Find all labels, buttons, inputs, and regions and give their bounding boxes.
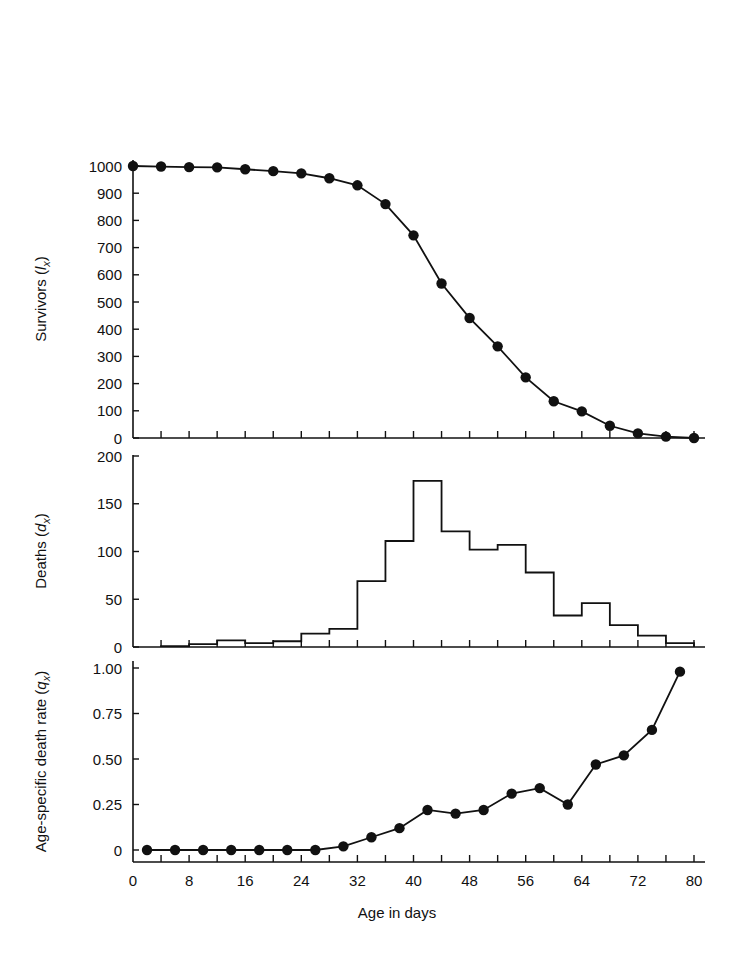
y-tick-label: 900 — [97, 185, 122, 202]
data-point — [142, 845, 152, 855]
data-point — [436, 278, 446, 288]
y-tick-label: 700 — [97, 239, 122, 256]
data-point — [563, 799, 573, 809]
y-axis-label: Age-specific death rate (qx) — [32, 671, 52, 852]
y-tick-label: 150 — [97, 495, 122, 512]
histogram-steps — [161, 481, 694, 647]
data-point — [689, 433, 699, 443]
data-point — [619, 750, 629, 760]
data-point — [535, 783, 545, 793]
data-point — [282, 845, 292, 855]
y-tick-label: 1.00 — [93, 660, 122, 677]
data-point — [464, 313, 474, 323]
death-rate-panel: 00.250.500.751.00Age-specific death rate… — [32, 660, 705, 890]
x-tick-label: 0 — [129, 872, 137, 889]
y-axis-label-close: ) — [32, 671, 49, 676]
x-tick-label: 56 — [517, 872, 534, 889]
data-point — [478, 805, 488, 815]
y-axis-label-close: ) — [32, 513, 49, 518]
x-tick-label: 72 — [630, 872, 647, 889]
x-axis-label: Age in days — [358, 904, 436, 921]
data-point — [661, 431, 671, 441]
data-point — [128, 161, 138, 171]
life-table-figure: 01002003004005006007008009001000Survivor… — [0, 0, 743, 958]
y-tick-label: 400 — [97, 321, 122, 338]
data-point — [521, 372, 531, 382]
y-tick-label: 0 — [114, 430, 122, 447]
y-tick-label: 200 — [97, 448, 122, 465]
x-tick-label: 32 — [349, 872, 366, 889]
data-point — [647, 725, 657, 735]
data-point — [170, 845, 180, 855]
x-tick-label: 64 — [573, 872, 590, 889]
y-tick-label: 100 — [97, 543, 122, 560]
data-point — [366, 832, 376, 842]
data-point — [338, 841, 348, 851]
y-tick-label: 100 — [97, 402, 122, 419]
data-line — [147, 672, 680, 850]
y-axis-label: Deaths (dx) — [32, 513, 52, 589]
data-point — [591, 759, 601, 769]
data-point — [394, 823, 404, 833]
y-tick-label: 600 — [97, 266, 122, 283]
data-point — [156, 161, 166, 171]
y-tick-label: 0.25 — [93, 796, 122, 813]
x-tick-label: 16 — [237, 872, 254, 889]
data-point — [506, 788, 516, 798]
survivors-panel: 01002003004005006007008009001000Survivor… — [32, 158, 705, 447]
data-point — [675, 666, 685, 676]
data-point — [296, 168, 306, 178]
x-tick-label: 8 — [185, 872, 193, 889]
data-point — [605, 421, 615, 431]
data-point — [492, 341, 502, 351]
x-tick-label: 40 — [405, 872, 422, 889]
deaths-panel: 050100150200Deaths (dx) — [32, 448, 705, 656]
data-point — [380, 199, 390, 209]
y-tick-label: 50 — [105, 591, 122, 608]
data-point — [324, 173, 334, 183]
data-point — [226, 845, 236, 855]
x-tick-label: 24 — [293, 872, 310, 889]
y-tick-label: 0 — [114, 639, 122, 656]
y-axis-label-text: Age-specific death rate ( — [32, 690, 49, 853]
y-axis-label: Survivors (lx) — [32, 256, 52, 342]
data-point — [240, 164, 250, 174]
data-point — [549, 396, 559, 406]
y-tick-label: 0.75 — [93, 705, 122, 722]
y-tick-label: 1000 — [89, 158, 122, 175]
y-axis-label-close: ) — [32, 256, 49, 261]
data-point — [198, 845, 208, 855]
data-point — [450, 808, 460, 818]
data-point — [633, 428, 643, 438]
x-tick-label: 48 — [461, 872, 478, 889]
y-tick-label: 200 — [97, 375, 122, 392]
y-tick-label: 300 — [97, 348, 122, 365]
y-axis-label-text: Deaths ( — [32, 532, 49, 589]
data-point — [422, 805, 432, 815]
data-point — [408, 230, 418, 240]
data-point — [268, 166, 278, 176]
data-point — [184, 162, 194, 172]
x-tick-label: 80 — [686, 872, 703, 889]
y-tick-label: 0.50 — [93, 751, 122, 768]
data-point — [577, 406, 587, 416]
data-point — [310, 845, 320, 855]
y-tick-label: 0 — [114, 842, 122, 859]
data-line — [133, 166, 694, 438]
y-axis-label-text: Survivors ( — [32, 270, 49, 342]
y-tick-label: 800 — [97, 212, 122, 229]
data-point — [352, 180, 362, 190]
data-point — [212, 162, 222, 172]
data-point — [254, 845, 264, 855]
y-tick-label: 500 — [97, 294, 122, 311]
